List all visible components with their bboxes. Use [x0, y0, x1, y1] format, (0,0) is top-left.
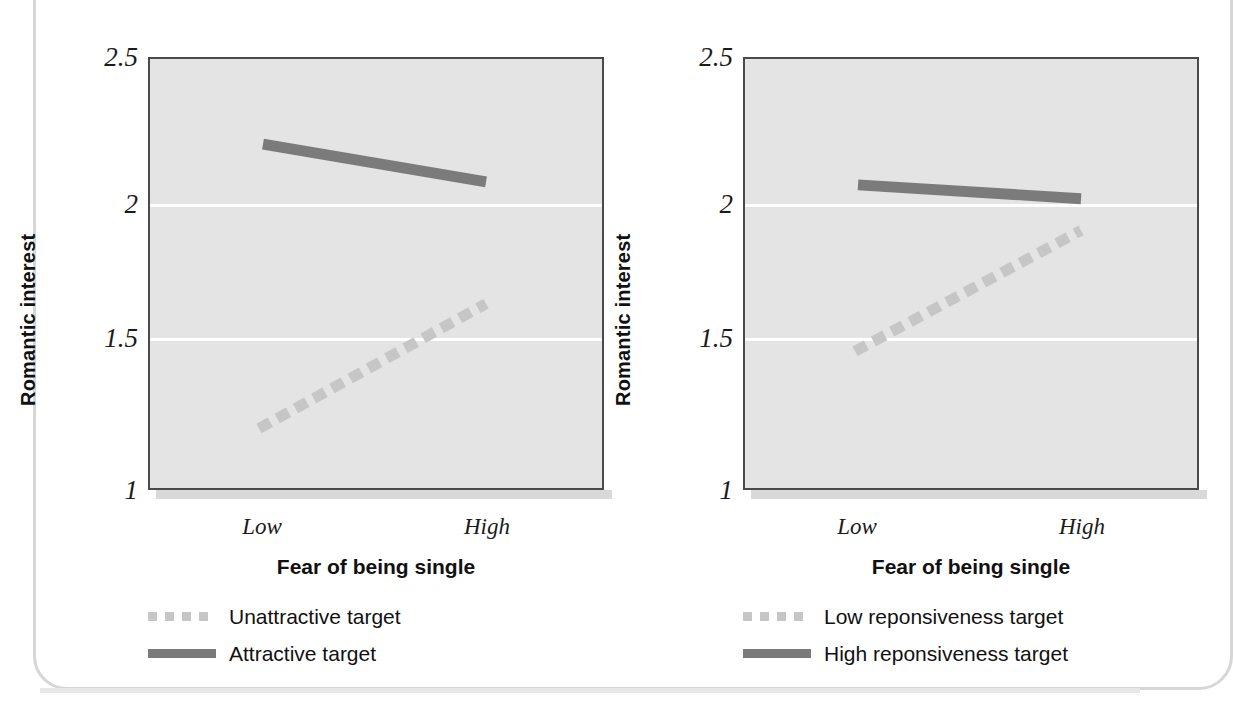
legend-right: Low reponsiveness target High reponsiven… — [743, 598, 1068, 672]
plot-drop-shadow — [751, 490, 1207, 499]
x-axis-label: Fear of being single — [872, 555, 1070, 579]
legend-label: Unattractive target — [229, 605, 401, 629]
legend-item-unattractive-target: Unattractive target — [148, 598, 401, 635]
x-tick-low: Low — [242, 514, 282, 540]
chart-panel-left: Romantic interest 2.5 2 1.5 1 Low High F… — [0, 0, 620, 711]
series-line-unattractive-target — [259, 304, 486, 429]
chart-panel-right: Romantic interest 2.5 2 1.5 1 Low High F… — [595, 0, 1067, 711]
solid-line-swatch-icon — [743, 649, 811, 658]
x-tick-high: High — [1059, 514, 1105, 540]
x-axis-label: Fear of being single — [277, 555, 475, 579]
y-tick-2: 2 — [125, 189, 139, 220]
y-tick-2-5: 2.5 — [104, 42, 138, 73]
plot-wrapper-left: 2.5 2 1.5 1 — [148, 57, 604, 490]
solid-line-swatch-icon — [148, 649, 216, 658]
plot-wrapper-right: 2.5 2 1.5 1 — [743, 57, 1199, 490]
x-tick-low: Low — [837, 514, 877, 540]
legend-item-low-responsiveness-target: Low reponsiveness target — [743, 598, 1068, 635]
y-axis-label: Romantic interest — [612, 234, 635, 406]
y-axis-label: Romantic interest — [17, 234, 40, 406]
y-tick-1-5: 1.5 — [699, 323, 733, 354]
legend-label: Attractive target — [229, 642, 376, 666]
y-tick-1: 1 — [720, 475, 734, 506]
legend-item-attractive-target: Attractive target — [148, 635, 401, 672]
plot-drop-shadow — [156, 490, 612, 499]
series-line-high-responsiveness-target — [858, 185, 1081, 199]
x-tick-high: High — [464, 514, 510, 540]
y-tick-1-5: 1.5 — [104, 323, 138, 354]
y-tick-1: 1 — [125, 475, 139, 506]
series-lines-right — [745, 59, 1197, 488]
legend-label: High reponsiveness target — [824, 642, 1068, 666]
legend-left: Unattractive target Attractive target — [148, 598, 401, 672]
y-tick-2: 2 — [720, 189, 734, 220]
dashed-line-swatch-icon — [148, 612, 216, 621]
legend-label: Low reponsiveness target — [824, 605, 1063, 629]
plot-area-left — [148, 57, 604, 490]
plot-area-right — [743, 57, 1199, 490]
legend-item-high-responsiveness-target: High reponsiveness target — [743, 635, 1068, 672]
series-lines-left — [150, 59, 602, 488]
dashed-line-swatch-icon — [743, 612, 811, 621]
series-line-attractive-target — [263, 144, 486, 182]
series-line-low-responsiveness-target — [855, 230, 1081, 351]
y-tick-2-5: 2.5 — [699, 42, 733, 73]
